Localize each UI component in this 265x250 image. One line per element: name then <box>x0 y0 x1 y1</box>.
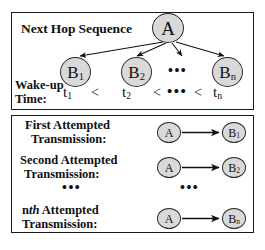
row2-node-b2: B2 <box>222 157 246 178</box>
row2-node-a-label: A <box>165 162 174 174</box>
node-bn-base: B <box>219 63 230 82</box>
node-bn-sub: n <box>231 71 236 82</box>
wakeup-time-label-line2: Time: <box>15 92 47 106</box>
row3-node-a-label: A <box>165 213 174 225</box>
time-tn: tn <box>213 84 222 101</box>
node-a-label: A <box>161 19 175 38</box>
row3-node-bn-base: B <box>228 212 236 226</box>
time-tn-sub: n <box>217 90 222 101</box>
second-attempt-label: Second Attempted Transmission: <box>20 153 118 181</box>
nth-attempt-label-line2: Transmission: <box>22 217 99 231</box>
second-attempt-label-line2: Transmission: <box>20 167 118 181</box>
row3-node-a: A <box>157 208 181 229</box>
time-t1-sub: 1 <box>67 90 72 101</box>
node-b2-base: B <box>128 63 139 82</box>
time-sequence-ellipsis: ••• <box>167 84 187 99</box>
nth-attempt-rest: Attempted <box>39 203 98 217</box>
node-b1-sub: 1 <box>79 71 84 82</box>
row1-node-b1: B1 <box>222 122 246 143</box>
row2-node-b2-sub: 2 <box>236 166 240 175</box>
node-bn: Bn <box>212 57 243 87</box>
wakeup-time-label: Wake-up Time: <box>15 79 64 106</box>
node-b1-base: B <box>67 63 78 82</box>
row1-node-b1-sub: 1 <box>236 131 240 140</box>
first-attempt-label-line1: First Attempted <box>25 118 110 132</box>
first-attempt-label: First Attempted Transmission: <box>25 118 110 146</box>
node-b1: B1 <box>60 57 91 87</box>
row2-node-b2-base: B <box>228 161 236 175</box>
nth-attempt-ordinal: th <box>29 203 39 217</box>
time-t1: t1 <box>63 84 72 101</box>
time-operator-3: < <box>194 85 202 101</box>
attempt-rows-ellipsis-left: ••• <box>62 181 81 195</box>
time-operator-1: < <box>91 85 99 101</box>
node-b2: B2 <box>121 57 152 87</box>
wakeup-time-label-line1: Wake-up <box>15 78 64 92</box>
wakeup-time-sequence: t1 < t2 < ••• < tn <box>63 84 249 106</box>
nth-attempt-prefix: n <box>22 203 29 217</box>
nth-attempt-label: nth Attempted Transmission: <box>22 203 99 231</box>
second-attempt-label-line1: Second Attempted <box>20 153 118 167</box>
figure-root: Next Hop Sequence A B1 B2 Bn ••• Wake-up… <box>0 0 265 250</box>
row1-node-b1-base: B <box>228 126 236 140</box>
time-operator-2: < <box>153 85 161 101</box>
row3-node-bn-sub: n <box>236 217 240 226</box>
row1-node-a-label: A <box>165 127 174 139</box>
node-b2-sub: 2 <box>140 71 145 82</box>
first-attempt-label-line2: Transmission: <box>25 132 110 146</box>
attempt-rows-ellipsis-right: ••• <box>180 181 199 195</box>
row1-node-a: A <box>157 122 181 143</box>
node-a-top: A <box>152 13 184 43</box>
next-hop-sequence-heading: Next Hop Sequence <box>21 22 132 36</box>
time-t2: t2 <box>122 84 131 101</box>
time-t2-sub: 2 <box>126 90 131 101</box>
node-row-ellipsis: ••• <box>168 64 187 78</box>
row2-node-a: A <box>157 157 181 178</box>
row3-node-bn: Bn <box>222 208 246 229</box>
